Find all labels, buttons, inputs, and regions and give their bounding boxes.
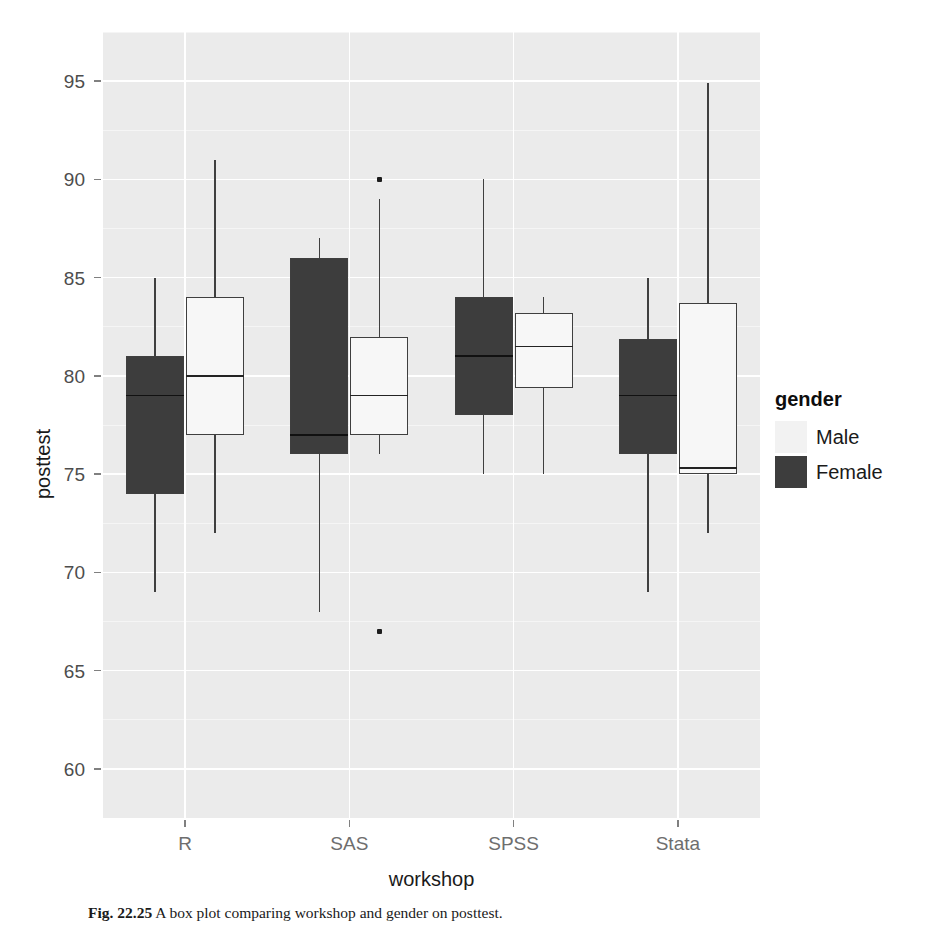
whisker-upper xyxy=(483,179,484,297)
whisker-lower xyxy=(647,454,648,592)
y-tick-label: 65 xyxy=(27,662,85,681)
whisker-upper xyxy=(154,278,155,357)
gridline-major-y xyxy=(103,670,760,671)
outlier-point xyxy=(377,177,382,182)
y-tick-label: 70 xyxy=(27,563,85,582)
gridline-major-y xyxy=(103,572,760,573)
y-tick-label: 90 xyxy=(27,170,85,189)
median-line xyxy=(350,395,408,397)
x-tick-mark xyxy=(349,820,350,827)
y-tick-mark xyxy=(94,80,101,81)
box-stata-female xyxy=(619,339,677,455)
whisker-lower xyxy=(214,435,215,533)
gridline-minor-y xyxy=(103,621,760,622)
x-tick-label-stata: Stata xyxy=(608,834,748,853)
box-sas-female xyxy=(290,258,348,455)
median-line xyxy=(515,346,573,348)
gridline-major-y xyxy=(103,473,760,474)
legend-title: gender xyxy=(775,388,883,411)
whisker-lower xyxy=(543,388,544,474)
y-tick-mark xyxy=(94,768,101,769)
plot-panel xyxy=(103,32,760,818)
whisker-lower xyxy=(319,454,320,611)
x-axis-label: workshop xyxy=(103,868,760,891)
gridline-major-y xyxy=(103,768,760,769)
figure-caption: Fig. 22.25 A box plot comparing workshop… xyxy=(88,903,728,927)
y-tick-mark xyxy=(94,473,101,474)
y-tick-mark xyxy=(94,572,101,573)
outlier-point xyxy=(377,629,382,634)
y-tick-mark xyxy=(94,670,101,671)
whisker-upper xyxy=(647,278,648,339)
legend-swatch-male xyxy=(775,421,807,453)
gridline-major-y xyxy=(103,179,760,180)
whisker-lower xyxy=(483,415,484,474)
gridline-minor-y xyxy=(103,32,760,33)
whisker-lower xyxy=(379,435,380,455)
whisker-upper xyxy=(214,160,215,298)
legend-item-female[interactable]: Female xyxy=(775,456,883,488)
y-tick-mark xyxy=(94,277,101,278)
median-line xyxy=(455,355,513,357)
y-tick-label: 95 xyxy=(27,72,85,91)
gridline-major-x xyxy=(513,32,514,818)
legend-label-male: Male xyxy=(816,426,859,449)
box-sas-male xyxy=(350,337,408,435)
median-line xyxy=(290,434,348,436)
legend-label-female: Female xyxy=(816,461,883,484)
legend-item-male[interactable]: Male xyxy=(775,421,883,453)
legend: gender MaleFemale xyxy=(775,388,883,491)
gridline-minor-y xyxy=(103,130,760,131)
y-tick-mark xyxy=(94,179,101,180)
whisker-upper xyxy=(707,83,708,303)
box-spss-male xyxy=(515,313,573,388)
whisker-lower xyxy=(707,474,708,533)
gridline-major-y xyxy=(103,277,760,278)
median-line xyxy=(186,375,244,377)
gridline-minor-y xyxy=(103,818,760,819)
x-tick-mark xyxy=(184,820,185,827)
median-line xyxy=(619,395,677,397)
y-tick-mark xyxy=(94,375,101,376)
box-r-male xyxy=(186,297,244,435)
y-tick-label: 80 xyxy=(27,367,85,386)
boxplot-figure: posttest 6065707580859095 RSASSPSSStata … xyxy=(0,0,930,927)
y-tick-label: 85 xyxy=(27,269,85,288)
box-r-female xyxy=(126,356,184,494)
x-tick-label-spss: SPSS xyxy=(444,834,584,853)
x-tick-mark xyxy=(677,820,678,827)
gridline-minor-y xyxy=(103,523,760,524)
legend-swatch-female xyxy=(775,456,807,488)
y-axis-label: posttest xyxy=(32,428,55,498)
whisker-upper xyxy=(543,297,544,313)
gridline-major-y xyxy=(103,80,760,81)
whisker-upper xyxy=(379,199,380,337)
caption-figure-number: Fig. 22.25 xyxy=(88,904,152,921)
gridline-minor-y xyxy=(103,228,760,229)
y-tick-label: 60 xyxy=(27,760,85,779)
box-stata-male xyxy=(679,303,737,474)
whisker-upper xyxy=(319,238,320,258)
gridline-minor-y xyxy=(103,719,760,720)
y-tick-label: 75 xyxy=(27,465,85,484)
legend-items: MaleFemale xyxy=(775,421,883,488)
x-tick-label-sas: SAS xyxy=(279,834,419,853)
whisker-lower xyxy=(154,494,155,592)
x-tick-label-r: R xyxy=(115,834,255,853)
caption-text: A box plot comparing workshop and gender… xyxy=(155,904,502,921)
x-tick-mark xyxy=(513,820,514,827)
median-line xyxy=(126,395,184,397)
median-line xyxy=(679,467,737,469)
